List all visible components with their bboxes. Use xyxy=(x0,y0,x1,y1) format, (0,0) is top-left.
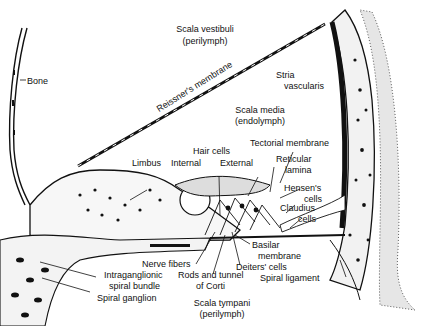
label-scala-media: Scala media xyxy=(220,105,300,115)
label-scala-tympani-fluid: (perilymph) xyxy=(182,309,262,319)
label-scala-vestibuli-fluid: (perilymph) xyxy=(150,36,260,46)
label-bone: Bone xyxy=(27,76,48,86)
label-claudius-2: cells xyxy=(298,214,316,224)
label-limbus: Limbus xyxy=(132,158,161,168)
label-internal: Internal xyxy=(171,158,201,168)
label-rods-tunnel-1: Rods and tunnel xyxy=(178,270,244,280)
label-basilar-2: membrane xyxy=(258,251,301,261)
label-reticular-2: lamina xyxy=(285,165,312,175)
label-external: External xyxy=(220,158,253,168)
label-hensens-1: Hensen's xyxy=(284,183,321,193)
label-scala-vestibuli: Scala vestibuli xyxy=(150,24,260,34)
label-stria-2: vascularis xyxy=(284,81,324,91)
label-intraganglionic-1: Intraganglionic xyxy=(104,270,163,280)
label-claudius-1: Claudius xyxy=(280,203,315,213)
label-tectorial-membrane: Tectorial membrane xyxy=(250,138,329,148)
label-deiters-cells: Deiters' cells xyxy=(236,262,287,272)
tectorial-membrane xyxy=(175,176,270,196)
label-intraganglionic-2: spiral bundle xyxy=(109,281,160,291)
label-stria-1: Stria xyxy=(276,70,295,80)
label-reticular-1: Reticular xyxy=(276,154,312,164)
label-scala-media-fluid: (endolymph) xyxy=(220,116,300,126)
label-spiral-ganglion: Spiral ganglion xyxy=(97,293,157,303)
lateral-wall xyxy=(330,10,415,310)
label-nerve-fibers: Nerve fibers xyxy=(142,259,191,269)
label-scala-tympani: Scala tympani xyxy=(182,298,262,308)
label-rods-tunnel-2: of Corti xyxy=(196,281,225,291)
label-spiral-ligament: Spiral ligament xyxy=(260,273,320,283)
bone-wall xyxy=(10,28,30,205)
label-hair-cells: Hair cells xyxy=(193,146,230,156)
label-basilar-1: Basilar xyxy=(252,240,280,250)
